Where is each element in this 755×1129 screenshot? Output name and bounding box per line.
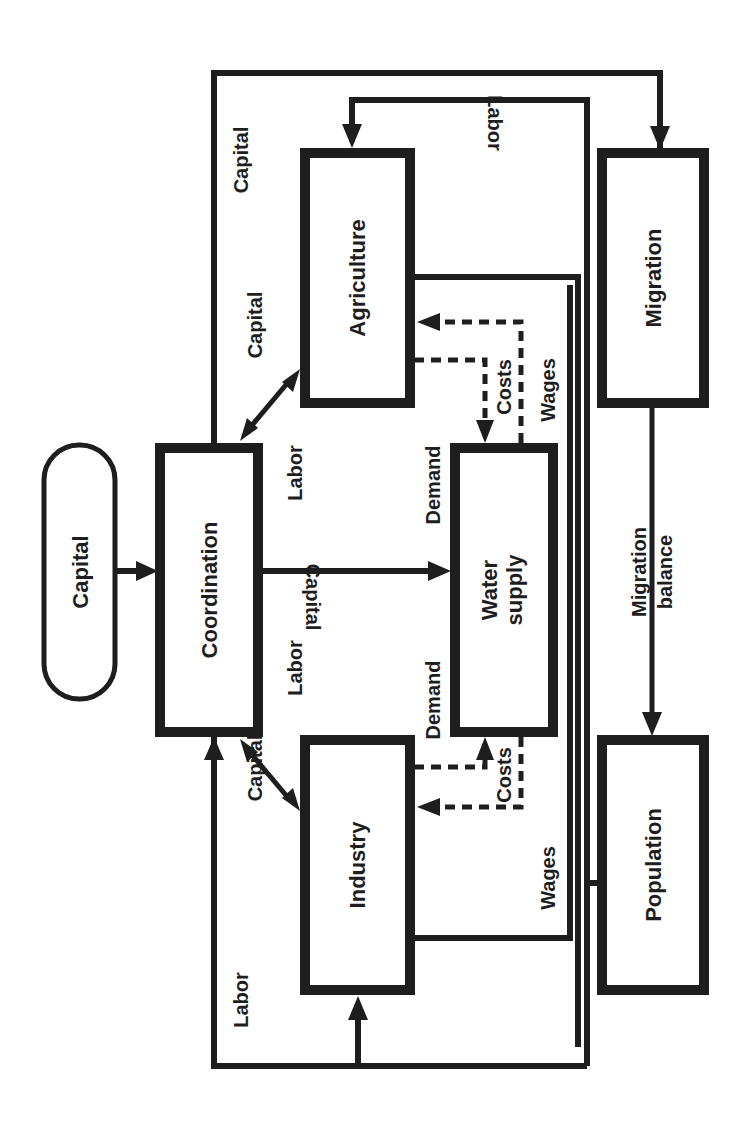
industry-demand-dashed <box>414 752 485 767</box>
arrow-to-population-icon <box>642 712 662 736</box>
arrow-capital-to-coord-icon <box>136 561 158 581</box>
labor-to-agriculture-label: Labor <box>484 95 506 151</box>
industry-costs-label: Costs <box>493 747 515 803</box>
agri-demand-dashed <box>414 360 485 430</box>
arrow-to-water-icon <box>428 561 451 581</box>
arrow-demand-to-water2-icon <box>476 737 494 760</box>
industry-label: Industry <box>345 821 370 909</box>
labor-to-agriculture-line <box>352 100 587 142</box>
system-diagram: Capital Coordination Agriculture Water s… <box>0 0 755 1129</box>
arrow-demand-to-water-icon <box>476 420 494 443</box>
arrow-to-agriculture-icon <box>342 124 362 148</box>
agriculture-label: Agriculture <box>345 219 370 336</box>
coord-agri-labor-label: Labor <box>284 445 306 501</box>
outer-labor-label: Labor <box>230 972 252 1028</box>
agri-demand-label: Demand <box>422 446 444 525</box>
industry-wages-label: Wages <box>537 846 559 910</box>
coord-industry-labor-label: Labor <box>284 640 306 696</box>
industry-demand-label: Demand <box>422 661 444 740</box>
population-label: Population <box>641 808 666 922</box>
migration-balance-label-2: balance <box>654 535 676 609</box>
agri-costs-label: Costs <box>493 359 515 415</box>
coord-water-capital-label: Capital <box>302 564 324 631</box>
arrow-costs-to-industry-icon <box>417 798 440 816</box>
water-supply-label-1: Water <box>477 559 502 620</box>
capital-source-label: Capital <box>68 535 93 608</box>
outer-capital-label: Capital <box>230 127 252 194</box>
coord-industry-capital-label: Capital <box>244 735 266 802</box>
arrow-to-migration-icon <box>650 126 670 150</box>
coord-agri-link <box>248 380 290 430</box>
coordination-label: Coordination <box>197 522 222 659</box>
agri-wages-label: Wages <box>537 358 559 422</box>
coord-agri-capital-label: Capital <box>244 292 266 359</box>
migration-label: Migration <box>641 229 666 328</box>
water-supply-label-2: supply <box>502 554 527 626</box>
arrow-to-coordination-bottom-icon <box>204 737 224 760</box>
migration-balance-label-1: Migration <box>628 527 650 617</box>
arrow-to-industry-icon <box>348 996 368 1020</box>
arrow-costs-to-agri-icon <box>417 313 440 331</box>
